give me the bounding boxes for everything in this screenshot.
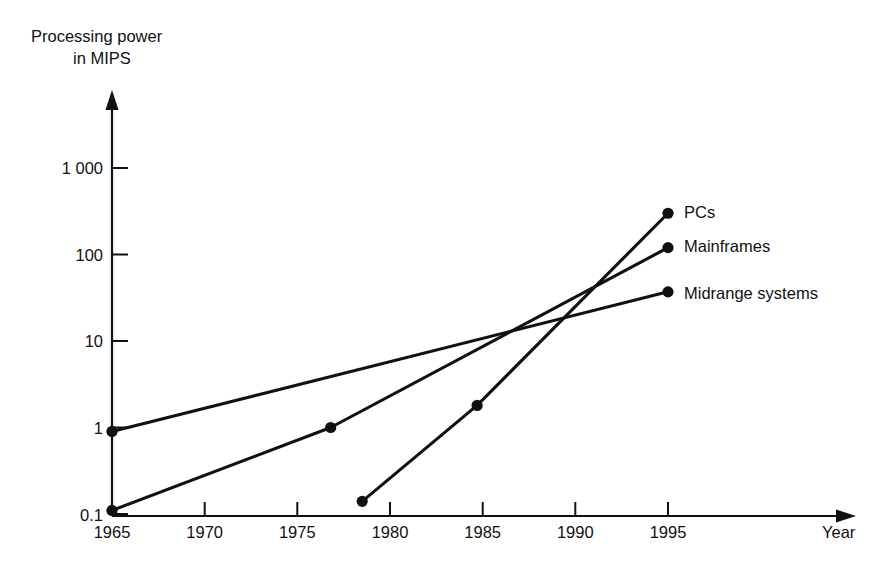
- y-tick-label-1: 1: [94, 419, 103, 437]
- series-layer: [106, 208, 673, 516]
- data-point-pcs-1: [472, 400, 483, 411]
- x-axis-ticks: [205, 502, 668, 516]
- x-axis-arrow-icon: [836, 510, 856, 523]
- y-axis-arrow-icon: [106, 90, 119, 110]
- x-tick-label-1980: 1980: [372, 523, 409, 541]
- x-axis-label: Year: [822, 523, 856, 541]
- y-tick-label-10: 10: [85, 332, 103, 350]
- x-tick-label-1975: 1975: [279, 523, 316, 541]
- data-point-midrange-systems-1: [662, 286, 673, 297]
- series-line-midrange-systems: [112, 292, 668, 432]
- y-tick-label-0.1: 0.1: [80, 506, 103, 524]
- processing-power-line-chart: Processing power in MIPS 1 000 100 10 1 …: [0, 0, 896, 578]
- y-axis-label-line2: in MIPS: [73, 49, 131, 67]
- data-point-mainframes-0: [106, 505, 117, 516]
- y-axis-label-line1: Processing power: [31, 27, 163, 45]
- y-tick-label-1000: 1 000: [62, 159, 103, 177]
- series-label-midrange-systems: Midrange systems: [684, 284, 818, 302]
- y-axis-ticks: [112, 168, 128, 514]
- x-tick-label-1985: 1985: [464, 523, 501, 541]
- series-label-pcs: PCs: [684, 203, 715, 221]
- x-tick-label-1965: 1965: [94, 523, 131, 541]
- data-point-mainframes-2: [662, 242, 673, 253]
- series-labels: PCs Mainframes Midrange systems: [684, 203, 818, 302]
- series-label-mainframes: Mainframes: [684, 237, 770, 255]
- x-tick-label-1970: 1970: [186, 523, 223, 541]
- series-mainframes: [106, 242, 673, 516]
- chart-container: Processing power in MIPS 1 000 100 10 1 …: [0, 0, 896, 578]
- series-line-mainframes: [112, 248, 668, 511]
- x-tick-label-1995: 1995: [650, 523, 687, 541]
- y-tick-label-100: 100: [75, 246, 103, 264]
- data-point-pcs-2: [662, 208, 673, 219]
- x-tick-label-1990: 1990: [557, 523, 594, 541]
- data-point-midrange-systems-0: [106, 426, 117, 437]
- series-midrange-systems: [106, 286, 673, 437]
- y-axis-tick-labels: 1 000 100 10 1 0.1: [62, 159, 103, 524]
- data-point-pcs-0: [357, 496, 368, 507]
- data-point-mainframes-1: [325, 422, 336, 433]
- x-axis-tick-labels: 1965 1970 1975 1980 1985 1990 1995: [94, 523, 687, 541]
